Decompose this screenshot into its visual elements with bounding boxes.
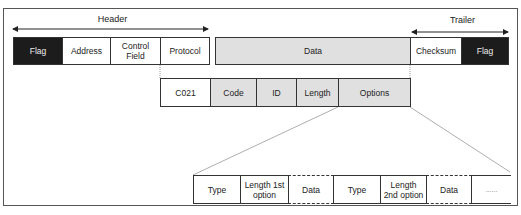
header-label: Header [85,14,140,24]
frame-flag-end: Flag [461,37,509,65]
frame-address: Address [62,37,111,65]
lcp-length: Length [296,78,339,107]
frame-data: Data [215,37,411,65]
option-length-2: Length 2nd option [380,175,427,204]
frame-control-field: Control Field [110,37,161,65]
option-data-2: Data [426,175,472,204]
trailer-label: Trailer [440,15,485,25]
lcp-id: ID [256,78,297,107]
option-type-2: Type [333,175,381,204]
option-type-1: Type [193,175,241,204]
lcp-protocol-c021: C021 [160,78,211,107]
option-more-ellipsis: ...... [471,175,511,204]
frame-protocol: Protocol [160,37,210,65]
lcp-options: Options [338,78,411,107]
frame-checksum: Checksum [410,37,462,65]
frame-flag-start: Flag [13,37,63,65]
lcp-code: Code [210,78,257,107]
option-length-1: Length 1st option [240,175,289,204]
option-data-1: Data [288,175,334,204]
